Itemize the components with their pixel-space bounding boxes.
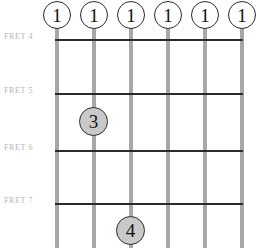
- string-3: [129, 14, 133, 248]
- nut-marker-string-2[interactable]: 1: [80, 1, 108, 29]
- fret-line-6: [55, 150, 243, 152]
- nut-marker-string-6[interactable]: 1: [228, 1, 256, 29]
- nut-marker-string-1[interactable]: 1: [43, 1, 71, 29]
- nut-marker-string-3[interactable]: 1: [117, 1, 145, 29]
- fret-label-6: FRET 6: [4, 144, 33, 152]
- nut-marker-string-4[interactable]: 1: [154, 1, 182, 29]
- finger-marker-4[interactable]: 4: [116, 216, 145, 245]
- fret-label-4: FRET 4: [4, 33, 33, 41]
- fret-line-5: [55, 93, 243, 95]
- string-5: [203, 14, 207, 248]
- fret-label-7: FRET 7: [4, 197, 33, 205]
- fret-line-7: [55, 203, 243, 205]
- string-1: [55, 14, 59, 248]
- chord-diagram: FRET 4 FRET 5 FRET 6 FRET 7 1 1 1 1 1 1 …: [0, 0, 256, 248]
- finger-marker-3[interactable]: 3: [79, 107, 108, 136]
- fret-label-5: FRET 5: [4, 87, 33, 95]
- fret-line-4: [55, 39, 243, 41]
- string-6: [240, 14, 244, 248]
- nut-marker-string-5[interactable]: 1: [191, 1, 219, 29]
- string-4: [166, 14, 170, 248]
